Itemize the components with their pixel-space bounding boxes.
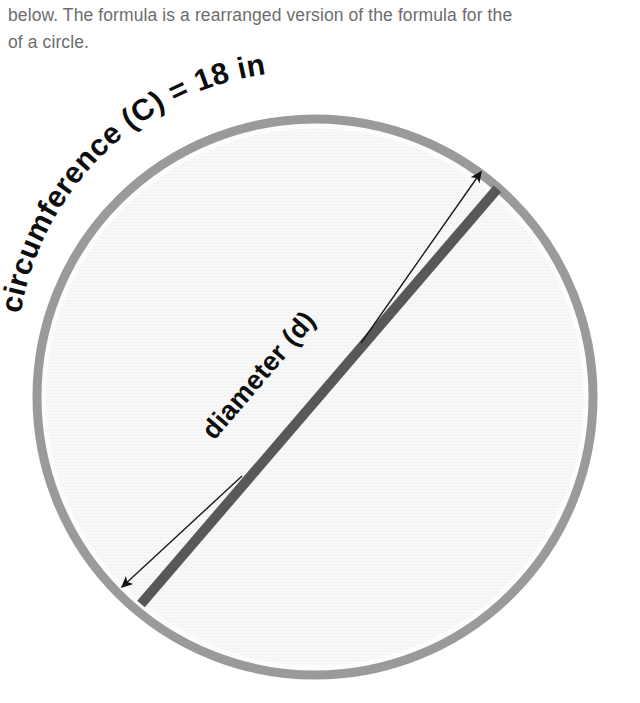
page-canvas: below. The formula is a rearranged versi… (0, 0, 640, 703)
body-text-line-1: below. The formula is a rearranged versi… (8, 2, 512, 29)
circle-figure: circumference (C) = 18 in diameter (d) (0, 48, 640, 703)
circle-diagram-svg: circumference (C) = 18 in diameter (d) (0, 48, 640, 703)
